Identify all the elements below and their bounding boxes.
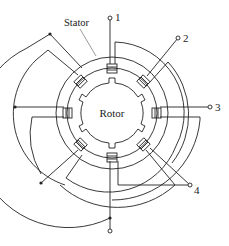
wiring — [0, 18, 210, 228]
stator-callout: Stator — [64, 17, 96, 56]
wire-left-coil-b — [30, 117, 64, 174]
wire-phase4-return — [60, 150, 175, 207]
terminal-3 — [208, 105, 212, 109]
rotor: Rotor — [79, 78, 145, 148]
terminal-common — [108, 229, 112, 233]
terminal-2 — [176, 36, 180, 40]
rotor-label: Rotor — [99, 107, 124, 119]
wire-bottomleft-coil — [41, 150, 78, 183]
terminal-1 — [108, 16, 112, 20]
wire-topleft-b — [48, 50, 78, 75]
wire-topleft-a — [50, 34, 82, 68]
wire-phase3-return — [112, 117, 200, 200]
terminal-3-label: 3 — [215, 101, 221, 113]
wire-left-inner — [13, 50, 65, 185]
wire-bottom-coil — [118, 161, 190, 185]
junction-dot — [48, 32, 51, 35]
stepper-motor-diagram: Rotor — [0, 0, 229, 246]
terminals: 1 2 3 4 — [108, 11, 221, 233]
junction-dot — [13, 105, 16, 108]
terminal-4-label: 4 — [194, 184, 200, 196]
wire-left-outer — [0, 34, 110, 228]
stator-leader-line — [80, 29, 96, 56]
wire-phase1-return — [115, 42, 184, 146]
terminal-2-label: 2 — [183, 32, 189, 44]
terminal-1-label: 1 — [115, 11, 121, 23]
lead-2 — [147, 38, 178, 76]
junction-dot — [39, 181, 42, 184]
terminal-4 — [188, 183, 192, 187]
stator-label: Stator — [64, 17, 90, 28]
